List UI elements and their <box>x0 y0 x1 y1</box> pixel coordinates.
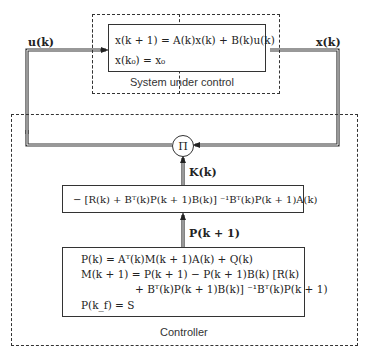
gain-equation: − [R(k) + Bᵀ(k)P(k + 1)B(k)] ⁻¹Bᵀ(k)P(k … <box>73 195 317 205</box>
multiplier-node: Π <box>172 135 194 157</box>
riccati-equation-1: P(k) = Aᵀ(k)M(k + 1)A(k) + Q(k) <box>81 254 253 265</box>
riccati-terminal-condition: P(k_f) = S <box>81 300 134 311</box>
output-signal-label: x(k) <box>316 36 341 49</box>
gain-signal-label: K(k) <box>189 166 217 179</box>
gain-block: − [R(k) + Bᵀ(k)P(k + 1)B(k)] ⁻¹Bᵀ(k)P(k … <box>62 185 304 213</box>
plant-state-equation: x(k + 1) = A(k)x(k) + B(k)u(k) <box>115 35 275 46</box>
input-signal-label: u(k) <box>28 36 54 49</box>
plant-label: System under control <box>130 76 234 88</box>
riccati-block: P(k) = Aᵀ(k)M(k + 1)A(k) + Q(k) M(k + 1)… <box>62 247 305 317</box>
riccati-signal-label: P(k + 1) <box>189 227 240 240</box>
plant-initial-condition: x(k₀) = x₀ <box>115 55 165 66</box>
product-icon: Π <box>178 140 188 153</box>
controller-label: Controller <box>160 326 208 338</box>
plant-block: x(k + 1) = A(k)x(k) + B(k)u(k) x(k₀) = x… <box>108 24 266 72</box>
riccati-equation-2: M(k + 1) = P(k + 1) − P(k + 1)B(k) [R(k) <box>81 269 299 280</box>
riccati-equation-3: + Bᵀ(k)P(k + 1)B(k)] ⁻¹Bᵀ(k)P(k + 1) <box>135 284 328 295</box>
